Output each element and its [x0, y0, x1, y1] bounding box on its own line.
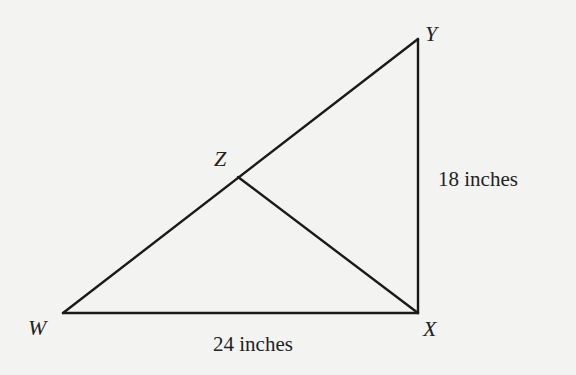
vertex-label-y: Y [425, 21, 440, 46]
segment-zx [238, 177, 418, 313]
vertex-label-w: W [28, 315, 48, 340]
length-label-wx: 24 inches [213, 332, 293, 356]
triangle-diagram: Y Z W X 18 inches 24 inches [0, 0, 576, 375]
length-label-xy: 18 inches [438, 167, 518, 191]
vertex-label-z: Z [214, 146, 227, 171]
vertex-label-x: X [422, 316, 438, 341]
